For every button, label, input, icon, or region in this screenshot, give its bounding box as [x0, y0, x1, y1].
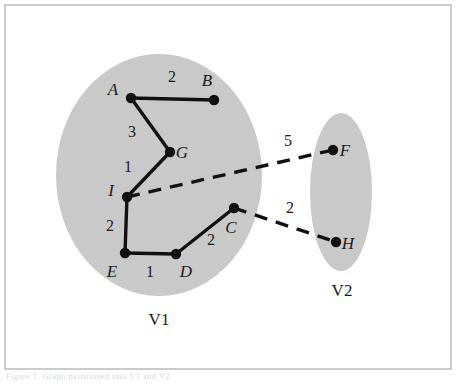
- edge-weight-d-c: 2: [207, 231, 215, 248]
- graph-node-b: [209, 95, 219, 105]
- graph-node-e: [120, 248, 130, 258]
- graph-node-g: [165, 147, 175, 157]
- edge-a-b: [131, 98, 214, 100]
- node-label-h: H: [341, 234, 356, 253]
- node-label-d: D: [179, 262, 193, 281]
- graph-node-f: [328, 145, 338, 155]
- graph-node-a: [126, 93, 136, 103]
- edge-weight-i-e: 2: [106, 217, 114, 234]
- node-label-a: A: [107, 80, 119, 99]
- graph-node-d: [171, 249, 181, 259]
- caption-fragment: Figure 1. Graph partitioned into V1 and …: [6, 371, 246, 383]
- graph-node-i: [122, 192, 132, 202]
- figure-root: 23121252 ABGIEDCFH V1V2 Figure 1. Graph …: [0, 0, 458, 385]
- node-label-c: C: [225, 218, 237, 237]
- graph-node-h: [331, 237, 341, 247]
- node-label-b: B: [202, 71, 213, 90]
- node-label-e: E: [106, 262, 118, 281]
- edge-weight-e-d: 1: [146, 263, 154, 280]
- edge-weight-g-i: 1: [124, 158, 132, 175]
- edge-i-e: [125, 197, 127, 253]
- node-label-g: G: [176, 143, 188, 162]
- edge-e-d: [125, 253, 176, 254]
- cluster-label-v2: V2: [332, 281, 353, 300]
- graph-diagram-canvas: 23121252 ABGIEDCFH V1V2: [0, 0, 458, 385]
- node-label-f: F: [339, 141, 351, 160]
- edge-weight-c-h: 2: [286, 199, 294, 216]
- cluster-label-v1: V1: [149, 310, 170, 329]
- edge-weight-a-g: 3: [128, 123, 136, 140]
- edge-weight-a-b: 2: [168, 68, 176, 85]
- edge-weight-i-f: 5: [284, 132, 292, 149]
- cluster-region-v1: [56, 54, 262, 296]
- graph-node-c: [229, 203, 239, 213]
